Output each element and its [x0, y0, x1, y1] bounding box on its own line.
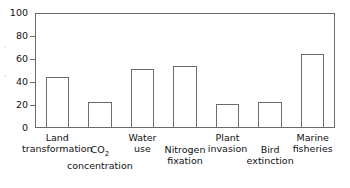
- edge-artifact: ‘: [4, 76, 7, 80]
- x-axis-label-line2: fisheries: [276, 143, 350, 154]
- bar: [216, 104, 239, 127]
- y-axis-tick-label: 100: [0, 8, 28, 18]
- bar: [258, 102, 281, 127]
- x-axis-label-line2: concentration: [63, 160, 137, 171]
- bar: [46, 77, 69, 127]
- x-axis-label: Marinefisheries: [276, 132, 350, 154]
- x-axis-label-line1: Water: [128, 132, 156, 143]
- bar: [173, 66, 196, 127]
- x-axis-label-line1: Marine: [296, 132, 328, 143]
- x-axis-label-line1: Land: [46, 132, 69, 143]
- x-axis-labels: LandtransformationCO2concentrationWateru…: [35, 130, 335, 188]
- bar: [131, 69, 154, 127]
- y-axis-tick-label: 20: [0, 100, 28, 110]
- bar-chart-figure: 020406080100 ‘ ‘ LandtransformationCO2co…: [0, 0, 350, 188]
- y-axis-tick-label: 80: [0, 31, 28, 41]
- x-axis-label-line2: fixation: [148, 155, 222, 166]
- x-axis-label-line2: extinction: [233, 155, 307, 166]
- y-axis-tick-label: 60: [0, 54, 28, 64]
- edge-artifact: ‘: [4, 48, 7, 52]
- bar: [301, 54, 324, 127]
- bar: [88, 102, 111, 127]
- x-axis-label-line1: Plant: [216, 132, 240, 143]
- bar-series: [36, 14, 334, 127]
